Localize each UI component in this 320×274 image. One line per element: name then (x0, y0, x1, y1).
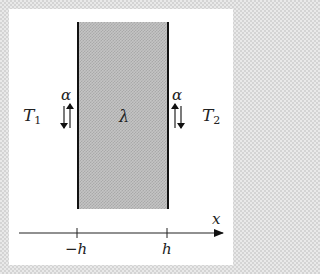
right-temperature-label: T2 (202, 107, 220, 126)
left-temperature-label: T1 (23, 107, 41, 126)
arrows-and-axis (0, 0, 241, 274)
slab-lambda-label: λ (119, 109, 129, 125)
left-alpha-label: α (61, 88, 71, 103)
tick-label-h: h (162, 242, 172, 257)
x-axis-label: x (212, 212, 220, 227)
right-alpha-label: α (172, 88, 182, 103)
tick-label-minus-h: −h (65, 242, 87, 257)
